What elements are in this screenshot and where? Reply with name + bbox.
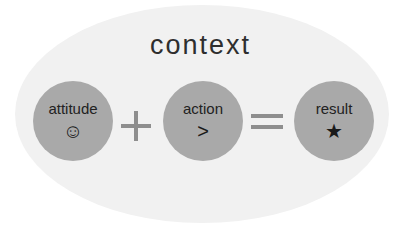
- equals-bottom-bar: [251, 125, 283, 129]
- star-icon: ★: [294, 119, 374, 143]
- smiley-icon: ☺: [33, 119, 113, 143]
- node-attitude-label: attitude: [33, 100, 113, 117]
- equals-top-bar: [251, 114, 283, 118]
- node-action-label: action: [163, 100, 243, 117]
- greater-than-icon: >: [163, 119, 243, 143]
- equals-operator-icon: [251, 110, 283, 134]
- node-result-label: result: [294, 100, 374, 117]
- node-action: action >: [163, 81, 243, 161]
- plus-vertical-bar: [134, 111, 138, 141]
- plus-operator-icon: [118, 100, 154, 140]
- node-result: result ★: [294, 81, 374, 161]
- context-title: context: [0, 30, 401, 61]
- node-attitude: attitude ☺: [33, 81, 113, 161]
